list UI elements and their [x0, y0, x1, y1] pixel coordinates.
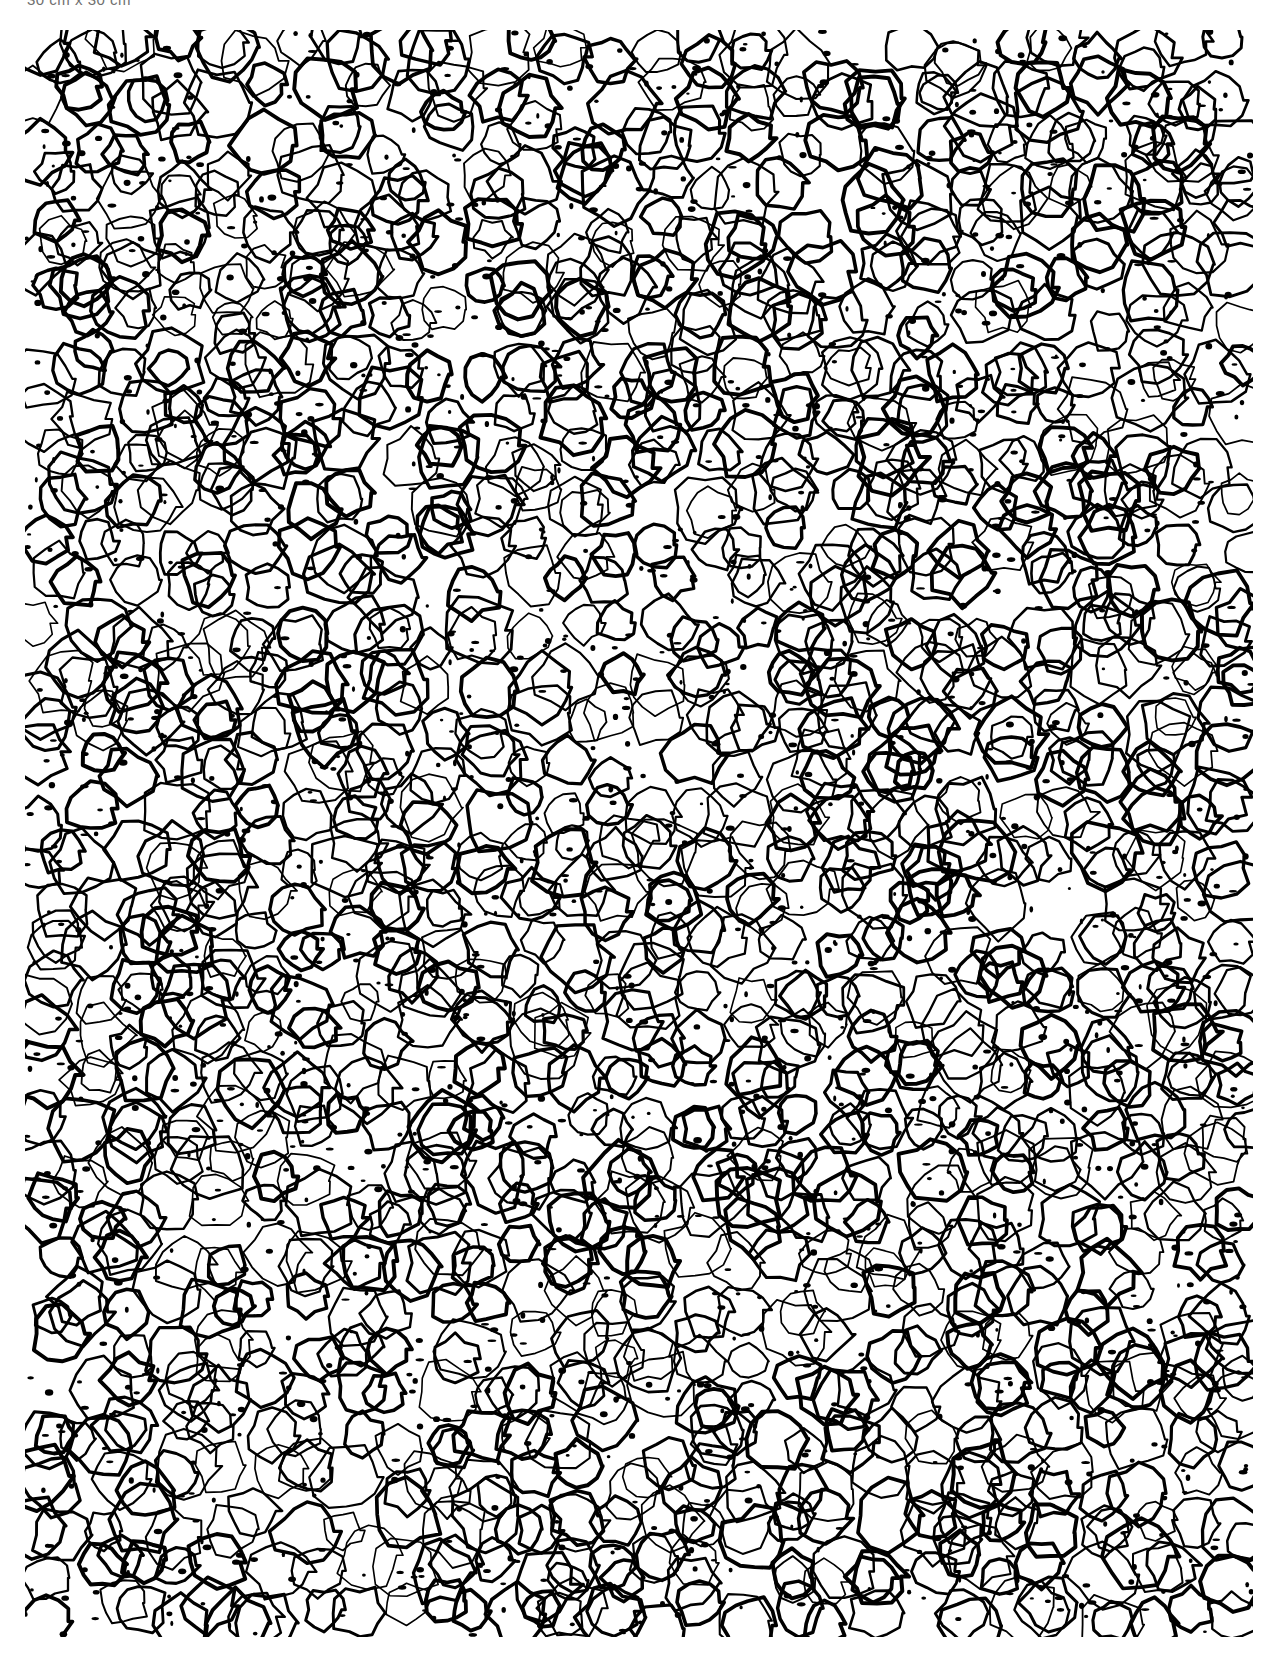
texture-canvas — [25, 30, 1253, 1637]
scale-label: 30 cm x 30 cm — [27, 0, 131, 8]
cellular-texture-image — [25, 30, 1253, 1637]
